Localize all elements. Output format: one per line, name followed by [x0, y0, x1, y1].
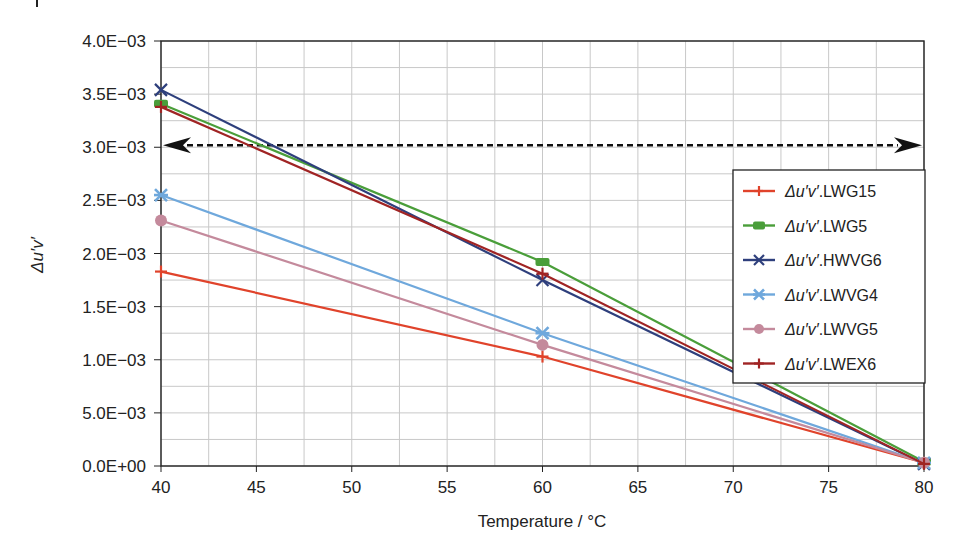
y-tick-label: 1.5E−03 [82, 298, 146, 317]
y-tick-label: 3.0E−03 [82, 138, 146, 157]
x-tick-label: 75 [819, 478, 838, 497]
legend-label: Δu′v′.LWG5 [784, 218, 867, 235]
x-tick-label: 80 [915, 478, 934, 497]
x-tick-label: 40 [152, 478, 171, 497]
legend-label: Δu′v′.HWVG6 [784, 252, 882, 269]
x-tick-label: 60 [533, 478, 552, 497]
legend-label: Δu′v′.LWVG5 [784, 321, 878, 338]
x-tick-label: 55 [438, 478, 457, 497]
x-tick-label: 45 [247, 478, 266, 497]
x-tick-label: 65 [628, 478, 647, 497]
y-tick-label: 4.0E−03 [82, 32, 146, 51]
y-tick-label: 1.0E−03 [82, 351, 146, 370]
legend-label: Δu′v′.LWVG4 [784, 287, 878, 304]
y-tick-label: 3.5E−03 [82, 85, 146, 104]
y-tick-label: 0.0E+00 [82, 457, 146, 476]
x-tick-label: 50 [342, 478, 361, 497]
x-axis-ticks: 404550556065707580 [152, 466, 934, 497]
y-axis-title: Δu′v′ [28, 236, 47, 274]
y-tick-label: 2.5E−03 [82, 191, 146, 210]
y-axis-ticks: 0.0E+005.0E−031.0E−031.5E−032.0E−032.5E−… [82, 32, 161, 476]
y-tick-label: 2.0E−03 [82, 245, 146, 264]
x-tick-label: 70 [724, 478, 743, 497]
legend: Δu′v′.LWG15Δu′v′.LWG5Δu′v′.HWVG6Δu′v′.LW… [733, 170, 925, 383]
x-axis-title: Temperature / °C [478, 512, 607, 531]
line-chart: 0.0E+005.0E−031.0E−031.5E−032.0E−032.5E−… [0, 0, 967, 554]
y-tick-label: 5.0E−03 [82, 404, 146, 423]
legend-label: Δu′v′.LWG15 [784, 183, 876, 200]
legend-label: Δu′v′.LWEX6 [784, 356, 876, 373]
